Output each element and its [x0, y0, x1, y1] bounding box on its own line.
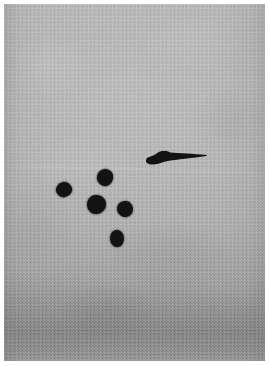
photograph-frame: [0, 0, 269, 366]
specimen-elongated-mark: [145, 148, 208, 165]
specimen-blob-center: [86, 194, 107, 215]
specimen-blob-north: [95, 168, 114, 188]
specimen-blob-south: [109, 229, 126, 248]
specimen-blob-west: [54, 180, 73, 198]
photograph-plate: [4, 4, 265, 361]
specimen-blob-east: [116, 200, 134, 218]
worm-shape-icon: [145, 148, 208, 165]
specimen-layer: [4, 4, 265, 361]
